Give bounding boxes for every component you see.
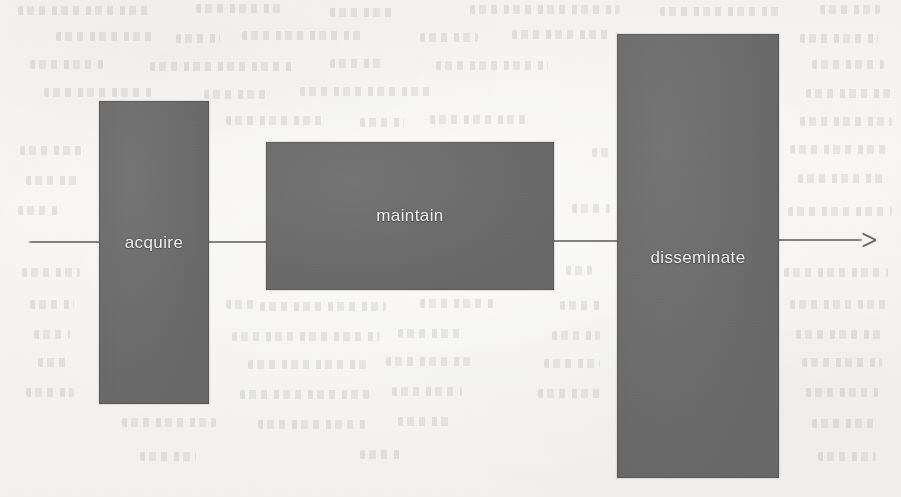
stage-box-acquire[interactable]: acquire	[99, 101, 209, 404]
flow-line-mid-segment-2	[550, 240, 620, 242]
flow-line-right-segment	[776, 239, 862, 241]
stage-box-maintain[interactable]: maintain	[266, 142, 554, 290]
arrow-head-right-icon	[861, 232, 877, 248]
flow-line-left-segment	[28, 241, 103, 243]
stage-label-maintain: maintain	[266, 207, 554, 224]
stage-label-acquire: acquire	[99, 234, 209, 251]
stage-label-disseminate: disseminate	[617, 249, 779, 266]
flow-line-mid-segment-1	[205, 241, 270, 243]
diagram-canvas: acquire maintain disseminate	[0, 0, 901, 497]
stage-box-disseminate[interactable]: disseminate	[617, 34, 779, 478]
